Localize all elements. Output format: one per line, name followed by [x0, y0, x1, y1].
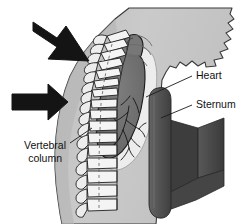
label-vertebral-column-line1: Vertebral	[24, 139, 66, 151]
label-vertebral-column-line2: column	[28, 152, 62, 164]
label-sternum: Sternum	[196, 98, 236, 110]
label-heart: Heart	[196, 69, 222, 81]
compression-arrow-upper	[33, 22, 89, 61]
diagram-canvas: Heart Sternum Vertebral column	[0, 0, 250, 224]
anatomy-figure: Heart Sternum Vertebral column	[0, 0, 250, 224]
